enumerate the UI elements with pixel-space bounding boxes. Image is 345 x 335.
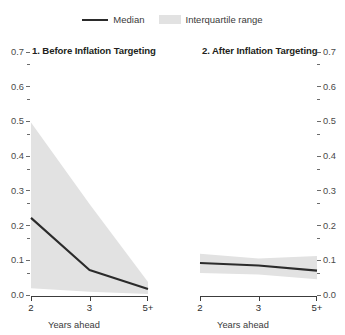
x-axis-title: Years ahead <box>157 320 329 330</box>
x-tick-mark-icon <box>147 297 148 301</box>
panel-left-svg <box>31 53 148 296</box>
y-minor-tick-mark-icon <box>317 169 320 170</box>
panels-row: 1. Before Inflation Targeting 0.00.10.20… <box>0 45 345 335</box>
legend-item-iqr: Interquartile range <box>159 14 263 25</box>
y-axis-minor-tick <box>27 203 30 204</box>
panel-left-y-axis: 0.00.10.20.30.40.50.60.7 <box>0 53 30 296</box>
y-axis-tick: 0.3 <box>317 186 336 196</box>
y-tick-mark-icon <box>317 295 321 296</box>
y-axis-minor-tick <box>317 99 320 100</box>
panel-after-inflation-targeting: 2. After Inflation Targeting 0.00.10.20.… <box>173 45 345 335</box>
y-tick-mark-icon <box>317 225 321 226</box>
y-tick-label: 0.1 <box>323 255 336 265</box>
y-axis-minor-tick <box>317 273 320 274</box>
y-tick-label: 0.4 <box>323 151 336 161</box>
y-axis-minor-tick <box>27 273 30 274</box>
y-minor-tick-mark-icon <box>317 99 320 100</box>
y-axis-minor-tick <box>317 134 320 135</box>
y-tick-label: 0.1 <box>11 255 24 265</box>
y-tick-mark-icon <box>26 52 30 53</box>
y-axis-minor-tick <box>317 238 320 239</box>
iqr-band-swatch-icon <box>159 15 181 24</box>
y-tick-mark-icon <box>26 225 30 226</box>
y-minor-tick-mark-icon <box>317 134 320 135</box>
y-axis-minor-tick <box>317 64 320 65</box>
y-tick-label: 0.7 <box>323 47 336 57</box>
y-axis-tick: 0.2 <box>11 221 30 231</box>
y-tick-label: 0.6 <box>323 81 336 91</box>
y-tick-label: 0.4 <box>11 151 24 161</box>
y-axis-tick: 0.1 <box>11 255 30 265</box>
y-tick-mark-icon <box>26 295 30 296</box>
y-tick-label: 0.6 <box>11 81 24 91</box>
legend-label-median: Median <box>113 14 144 25</box>
y-axis-tick: 0.7 <box>11 47 30 57</box>
y-tick-label: 0.5 <box>323 116 336 126</box>
median-line-swatch-icon <box>82 19 108 21</box>
y-axis-minor-tick <box>27 64 30 65</box>
y-axis-tick: 0.3 <box>11 186 30 196</box>
y-axis-tick: 0.5 <box>11 116 30 126</box>
x-tick-mark-icon <box>90 297 91 301</box>
figure-container: Median Interquartile range 1. Before Inf… <box>0 0 345 335</box>
y-axis-tick: 0.7 <box>317 47 336 57</box>
y-tick-label: 0.3 <box>323 185 336 195</box>
y-axis-minor-tick <box>27 169 30 170</box>
y-tick-mark-icon <box>26 121 30 122</box>
y-tick-label: 0.2 <box>323 220 336 230</box>
y-minor-tick-mark-icon <box>27 273 30 274</box>
y-minor-tick-mark-icon <box>27 99 30 100</box>
x-tick-mark-icon <box>259 297 260 301</box>
y-tick-mark-icon <box>317 260 321 261</box>
y-tick-mark-icon <box>317 156 321 157</box>
y-axis-minor-tick <box>317 169 320 170</box>
y-axis-minor-tick <box>27 99 30 100</box>
y-minor-tick-mark-icon <box>317 64 320 65</box>
x-tick-mark-icon <box>316 297 317 301</box>
panel-left-plot-area <box>31 53 148 296</box>
chart-legend: Median Interquartile range <box>0 14 345 25</box>
y-axis-minor-tick <box>317 203 320 204</box>
panel-right-y-axis: 0.00.10.20.30.40.50.60.7 <box>317 53 345 296</box>
y-axis-tick: 0.4 <box>11 151 30 161</box>
y-axis-tick: 0.1 <box>317 255 336 265</box>
y-tick-label: 0.3 <box>11 185 24 195</box>
y-tick-mark-icon <box>317 190 321 191</box>
y-axis-tick: 0.4 <box>317 151 336 161</box>
y-tick-mark-icon <box>317 52 321 53</box>
y-minor-tick-mark-icon <box>27 203 30 204</box>
y-minor-tick-mark-icon <box>27 238 30 239</box>
y-tick-label: 0.5 <box>11 116 24 126</box>
x-tick-label: 2 <box>28 302 33 313</box>
y-axis-minor-tick <box>27 134 30 135</box>
y-tick-mark-icon <box>26 156 30 157</box>
y-minor-tick-mark-icon <box>317 238 320 239</box>
x-tick-mark-icon <box>200 297 201 301</box>
y-axis-tick: 0.6 <box>317 82 336 92</box>
y-tick-label: 0.7 <box>11 47 24 57</box>
y-tick-label: 0.0 <box>323 290 336 300</box>
x-tick-label: 5+ <box>143 302 154 313</box>
y-tick-mark-icon <box>317 121 321 122</box>
x-tick-label: 3 <box>256 302 261 313</box>
panel-before-inflation-targeting: 1. Before Inflation Targeting 0.00.10.20… <box>0 45 172 335</box>
y-axis-minor-tick <box>27 238 30 239</box>
legend-label-iqr: Interquartile range <box>186 14 263 25</box>
y-axis-tick: 0.0 <box>11 290 30 300</box>
x-tick-mark-icon <box>31 297 32 301</box>
y-tick-mark-icon <box>317 86 321 87</box>
panel-left-iqr-band <box>31 122 148 293</box>
panel-right-plot-area <box>200 53 317 296</box>
y-tick-mark-icon <box>26 260 30 261</box>
y-minor-tick-mark-icon <box>317 203 320 204</box>
y-tick-label: 0.0 <box>11 290 24 300</box>
y-axis-tick: 0.2 <box>317 221 336 231</box>
y-tick-mark-icon <box>26 86 30 87</box>
panel-right-svg <box>200 53 317 296</box>
y-minor-tick-mark-icon <box>27 64 30 65</box>
y-minor-tick-mark-icon <box>27 169 30 170</box>
x-axis-title: Years ahead <box>0 320 160 330</box>
x-tick-label: 3 <box>87 302 92 313</box>
y-minor-tick-mark-icon <box>317 273 320 274</box>
y-tick-label: 0.2 <box>11 220 24 230</box>
